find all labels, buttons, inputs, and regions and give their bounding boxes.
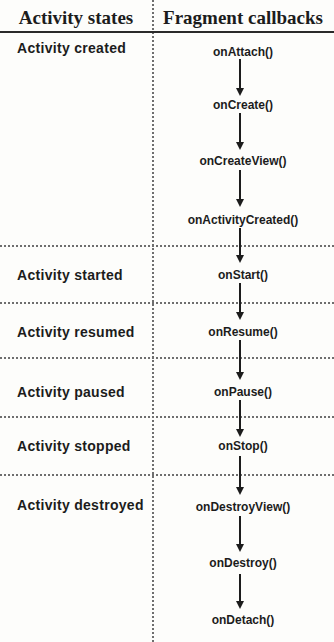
callback-onresume: onResume() (152, 325, 334, 339)
state-label-activity-stopped: Activity stopped (17, 438, 152, 454)
callback-onpause: onPause() (152, 385, 334, 399)
arrow-down-icon (239, 170, 241, 199)
callback-onstart: onStart() (152, 268, 334, 282)
callback-ondestroyview: onDestroyView() (152, 500, 334, 514)
row-divider-dotted-line (0, 357, 334, 359)
callback-ondetach: onDetach() (152, 613, 334, 627)
arrow-down-icon (239, 283, 241, 312)
callback-onattach: onAttach() (152, 45, 334, 59)
arrow-down-icon (239, 113, 241, 142)
arrow-down-icon (239, 516, 241, 544)
state-label-activity-created: Activity created (17, 40, 152, 56)
arrow-down-icon (239, 59, 241, 88)
callback-onactivitycreated: onActivityCreated() (152, 213, 334, 227)
right-column-header: Fragment callbacks (152, 7, 334, 29)
callback-onstop: onStop() (152, 439, 334, 453)
row-divider-dotted-line (0, 302, 334, 304)
arrow-down-icon (239, 574, 241, 601)
state-label-activity-destroyed: Activity destroyed (17, 497, 152, 513)
callback-ondestroy: onDestroy() (152, 556, 334, 570)
left-column-header: Activity states (0, 7, 152, 29)
callback-oncreateview: onCreateView() (152, 154, 334, 168)
fragment-lifecycle-diagram: Activity states Fragment callbacks Activ… (0, 0, 334, 642)
row-divider-dotted-line (0, 474, 334, 476)
state-label-activity-paused: Activity paused (17, 384, 152, 400)
column-divider-dotted-line (152, 0, 154, 642)
arrow-down-icon (239, 228, 241, 255)
arrow-down-icon (239, 340, 241, 372)
arrow-down-icon (239, 400, 241, 429)
arrow-down-icon (239, 456, 241, 487)
callback-oncreate: onCreate() (152, 98, 334, 112)
header-underline (0, 31, 334, 33)
state-label-activity-resumed: Activity resumed (17, 324, 152, 340)
row-divider-dotted-line (0, 245, 334, 247)
row-divider-dotted-line (0, 416, 334, 418)
state-label-activity-started: Activity started (17, 267, 152, 283)
